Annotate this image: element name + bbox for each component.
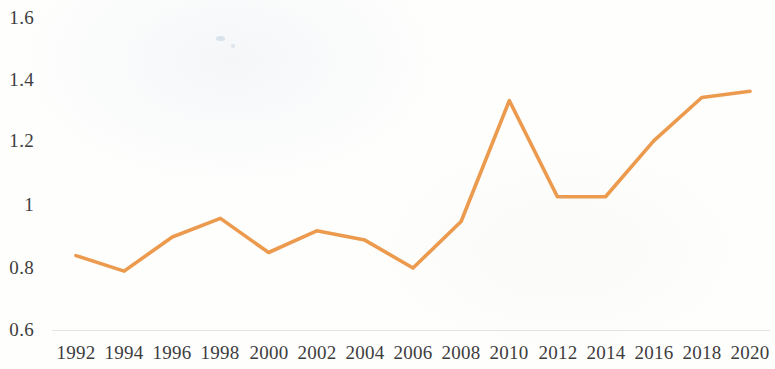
y-tick-label: 1.2 bbox=[0, 131, 34, 150]
y-tick-label: 1.4 bbox=[0, 70, 34, 89]
y-tick-label: 1.6 bbox=[0, 8, 34, 27]
y-tick-label: 0.6 bbox=[0, 320, 34, 339]
series-line-1 bbox=[76, 91, 750, 271]
plot-area bbox=[0, 0, 775, 369]
x-tick-label: 2020 bbox=[720, 343, 775, 362]
y-tick-label: 1 bbox=[0, 195, 34, 214]
line-chart: 1.6 1.4 1.2 1 0.8 0.6 1992 1994 1996 199… bbox=[0, 0, 775, 369]
y-tick-label: 0.8 bbox=[0, 258, 34, 277]
